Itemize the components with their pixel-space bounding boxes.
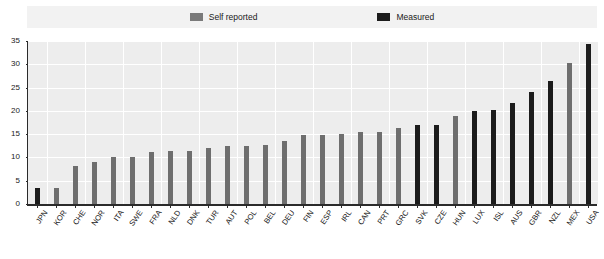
x-tick-label-svk: SVK xyxy=(414,209,429,226)
y-tick-label: 0 xyxy=(16,200,20,208)
x-tick-label-esp: ESP xyxy=(319,209,334,226)
x-tick-label-dnk: DNK xyxy=(185,209,200,227)
bar-esp xyxy=(320,135,325,204)
x-tick-label-aus: AUS xyxy=(509,209,524,226)
x-tick-label-grc: GRC xyxy=(394,209,410,227)
x-tick-mark xyxy=(94,205,95,208)
bar-usa xyxy=(586,44,591,204)
x-tick-label-prt: PRT xyxy=(376,209,391,226)
y-tick-label: 10 xyxy=(11,153,20,161)
x-tick-mark xyxy=(170,205,171,208)
legend-swatch-measured-icon xyxy=(377,13,390,21)
x-tick-label-can: CAN xyxy=(356,209,371,227)
chart-legend: Self reported Measured xyxy=(27,6,597,28)
bar-ita xyxy=(111,157,116,204)
x-tick-label-jpn: JPN xyxy=(34,209,48,225)
x-tick-mark xyxy=(512,205,513,208)
x-tick-mark xyxy=(151,205,152,208)
bar-fin xyxy=(301,135,306,204)
x-tick-label-nld: NLD xyxy=(167,209,182,226)
x-tick-mark xyxy=(227,205,228,208)
x-tick-label-deu: DEU xyxy=(280,209,295,227)
x-tick-mark xyxy=(303,205,304,208)
bar-deu xyxy=(282,141,287,204)
bar-aut xyxy=(225,146,230,204)
x-tick-label-fin: FIN xyxy=(301,209,314,223)
bar-isl xyxy=(491,110,496,204)
y-axis: 05101520253035 xyxy=(0,41,24,204)
bar-mex xyxy=(567,63,572,204)
bar-tur xyxy=(206,148,211,204)
x-tick-mark xyxy=(379,205,380,208)
x-tick-label-cze: CZE xyxy=(433,209,448,226)
y-tick-label: 30 xyxy=(11,60,20,68)
plot-area xyxy=(27,41,598,204)
x-tick-mark xyxy=(322,205,323,208)
legend-entry-measured: Measured xyxy=(377,13,434,22)
x-tick-mark xyxy=(360,205,361,208)
x-tick-mark xyxy=(531,205,532,208)
bar-hun xyxy=(453,116,458,204)
x-tick-mark xyxy=(341,205,342,208)
x-tick-mark xyxy=(246,205,247,208)
legend-swatch-self-reported-icon xyxy=(190,13,203,21)
x-tick-label-kor: KOR xyxy=(52,209,68,227)
x-tick-label-che: CHE xyxy=(71,209,86,227)
y-tick-label: 35 xyxy=(11,37,20,45)
x-tick-label-swe: SWE xyxy=(128,209,144,228)
bar-che xyxy=(73,166,78,204)
bar-jpn xyxy=(35,188,40,204)
x-tick-label-gbr: GBR xyxy=(527,209,543,227)
x-tick-mark xyxy=(436,205,437,208)
x-tick-mark xyxy=(56,205,57,208)
bar-bel xyxy=(263,145,268,204)
bar-grc xyxy=(396,128,401,204)
bar-fra xyxy=(149,152,154,204)
bar-cze xyxy=(434,125,439,204)
bar-dnk xyxy=(187,151,192,204)
bar-nld xyxy=(168,151,173,204)
x-tick-mark xyxy=(493,205,494,208)
bar-prt xyxy=(377,132,382,204)
x-tick-label-pol: POL xyxy=(243,209,258,226)
bar-svk xyxy=(415,125,420,204)
bar-kor xyxy=(54,188,59,204)
chart-container: Self reported Measured 05101520253035 JP… xyxy=(0,0,604,259)
x-tick-label-nor: NOR xyxy=(90,209,106,227)
x-tick-mark xyxy=(417,205,418,208)
x-tick-label-aut: AUT xyxy=(224,209,239,226)
x-tick-label-usa: USA xyxy=(585,209,600,226)
x-tick-label-hun: HUN xyxy=(451,209,467,227)
x-tick-mark xyxy=(474,205,475,208)
bar-pol xyxy=(244,146,249,204)
legend-label-measured: Measured xyxy=(396,13,434,22)
x-tick-label-irl: IRL xyxy=(340,209,353,223)
bar-aus xyxy=(510,103,515,204)
x-tick-label-bel: BEL xyxy=(262,209,276,225)
x-tick-mark xyxy=(189,205,190,208)
y-tick-label: 20 xyxy=(11,107,20,115)
bar-gbr xyxy=(529,92,534,204)
x-tick-mark xyxy=(550,205,551,208)
x-tick-mark xyxy=(265,205,266,208)
bar-nzl xyxy=(548,81,553,204)
x-tick-mark xyxy=(132,205,133,208)
x-tick-mark xyxy=(569,205,570,208)
y-tick-label: 5 xyxy=(16,177,20,185)
x-tick-mark xyxy=(455,205,456,208)
bar-irl xyxy=(339,134,344,204)
bar-swe xyxy=(130,157,135,205)
x-tick-mark xyxy=(208,205,209,208)
x-axis-labels: JPNKORCHENORITASWEFRANLDDNKTURAUTPOLBELD… xyxy=(27,209,597,257)
bar-series xyxy=(28,41,598,204)
x-tick-mark xyxy=(588,205,589,208)
x-tick-label-fra: FRA xyxy=(148,209,163,226)
x-tick-mark xyxy=(284,205,285,208)
x-tick-label-ita: ITA xyxy=(112,209,125,223)
bar-can xyxy=(358,132,363,204)
x-tick-label-lux: LUX xyxy=(471,209,486,225)
legend-label-self-reported: Self reported xyxy=(209,13,258,22)
x-tick-mark xyxy=(398,205,399,208)
y-tick-label: 15 xyxy=(11,130,20,138)
x-tick-label-mex: MEX xyxy=(565,209,581,227)
